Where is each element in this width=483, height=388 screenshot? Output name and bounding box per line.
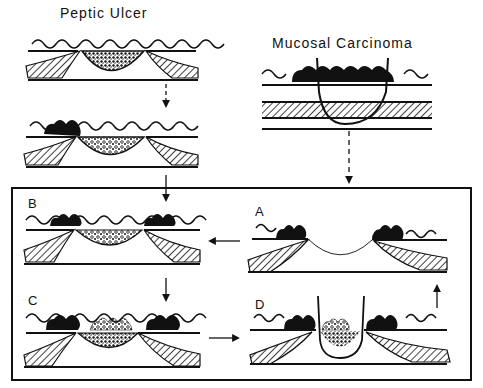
mucosa-wave <box>32 40 224 48</box>
peptic-ulcer-healing-diagram <box>24 120 198 167</box>
title-mucosal-carcinoma: Mucosal Carcinoma <box>272 35 413 51</box>
carcinoma-cells-left <box>284 315 316 330</box>
ulcer-crater <box>320 331 360 347</box>
muscle-left <box>24 137 76 165</box>
panel-c-diagram <box>24 314 206 367</box>
ulcer-base <box>308 239 372 255</box>
panel-label-b: B <box>28 196 37 211</box>
peptic-ulcer-diagram <box>26 40 224 80</box>
diagram: Peptic Ulcer Mucosal Carcinoma <box>0 0 483 388</box>
carcinoma-cells-right <box>144 214 176 226</box>
panel-label-a: A <box>255 204 264 219</box>
panel-label-d: D <box>255 297 264 312</box>
panel-d-diagram <box>250 296 450 364</box>
carcinoma-cells-left <box>276 225 306 240</box>
muscle-right <box>146 137 198 165</box>
carcinoma-cells <box>44 120 81 136</box>
carcinoma-cells <box>292 66 394 82</box>
panel-b-diagram <box>24 214 206 264</box>
mucosa-wave-right <box>404 70 428 78</box>
mucosa-wave <box>262 70 286 78</box>
ulcer-crater <box>82 51 144 71</box>
panel-label-c: C <box>28 293 37 308</box>
muscle-left <box>26 51 80 78</box>
carcinoma-cells-right <box>366 315 398 330</box>
ulcer-crater <box>76 230 142 245</box>
ulcer-crater <box>78 137 144 155</box>
mucosal-carcinoma-diagram <box>262 58 432 129</box>
carcinoma-cells-right <box>372 225 404 240</box>
title-peptic-ulcer: Peptic Ulcer <box>60 5 147 21</box>
regenerating-epithelium <box>322 319 349 330</box>
muscle-right <box>146 51 198 78</box>
carcinoma-cells-right <box>146 315 180 330</box>
panel-a-diagram <box>248 225 447 273</box>
ulcer-crater <box>78 333 138 348</box>
